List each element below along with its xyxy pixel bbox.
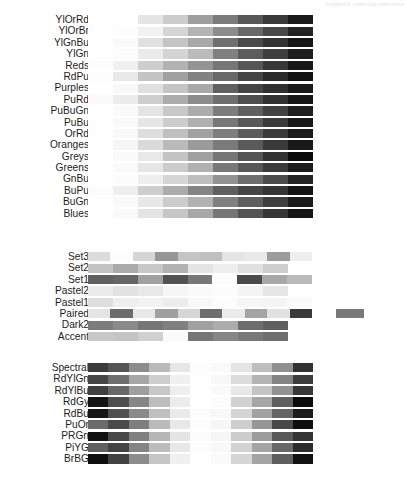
colormap-row: Set3 [0,251,407,262]
colormap-group-sequential: YlOrRdYlOrBrYlGnBuYlGnRedsRdPuPurplesPuR… [0,14,407,219]
colormap-swatch [188,163,213,172]
colormap-swatch [163,61,188,70]
colormap-swatch [213,286,238,295]
colormap-strip [88,332,288,341]
colormap-strip [88,163,313,172]
colormap-swatch [138,186,163,195]
colormap-swatch [238,264,263,273]
colormap-swatch [113,175,138,184]
colormap-name-label: PiYG [0,442,89,453]
colormap-swatch [263,27,288,36]
figure-faint-header: matplotlib colormap reference [252,1,404,7]
colormap-swatch [188,84,213,93]
colormap-strip-extra [336,309,364,318]
colormap-swatch [88,175,113,184]
colormap-name-label: PuRd [0,94,89,105]
colormap-swatch [288,140,313,149]
colormap-swatch [88,321,113,330]
colormap-swatch [188,175,213,184]
colormap-swatch [293,443,313,452]
colormap-swatch [288,175,313,184]
colormap-swatch [149,409,169,418]
colormap-swatch [88,140,113,149]
colormap-swatch [190,443,210,452]
colormap-swatch [222,252,244,261]
colormap-swatch [252,375,272,384]
colormap-name-label: RdGy [0,396,89,407]
colormap-swatch [238,27,263,36]
colormap-swatch [163,49,188,58]
colormap-name-label: Blues [0,208,89,219]
colormap-swatch [88,286,113,295]
colormap-swatch [113,275,138,284]
colormap-strip [88,432,313,441]
colormap-row: RdYlBu [0,385,407,396]
colormap-swatch [163,321,188,330]
colormap-strip [88,275,312,284]
colormap-swatch [188,286,213,295]
colormap-swatch [188,106,213,115]
colormap-swatch [263,38,288,47]
colormap-swatch [252,363,272,372]
colormap-swatch [231,375,251,384]
colormap-strip [88,197,313,206]
colormap-swatch [231,420,251,429]
colormap-row: PRGn [0,430,407,441]
colormap-strip [88,15,313,24]
colormap-strip [88,298,312,307]
colormap-swatch [213,163,238,172]
colormap-swatch [163,152,188,161]
colormap-strip [88,209,313,218]
colormap-name-label: Purples [0,82,89,93]
colormap-swatch [190,420,210,429]
colormap-swatch [149,432,169,441]
colormap-row: RdPu [0,71,407,82]
colormap-swatch [188,61,213,70]
colormap-swatch [138,321,163,330]
colormap-swatch [170,432,190,441]
colormap-swatch [155,252,177,261]
colormap-swatch [190,397,210,406]
colormap-swatch [238,332,263,341]
colormap-swatch [149,363,169,372]
colormap-swatch [88,454,108,463]
colormap-swatch [138,264,163,273]
colormap-strip [88,84,313,93]
colormap-swatch [263,152,288,161]
colormap-swatch [231,454,251,463]
colormap-swatch [245,252,267,261]
colormap-swatch [88,186,113,195]
colormap-swatch [163,38,188,47]
colormap-name-label: Set2 [0,262,89,273]
colormap-swatch [290,252,312,261]
colormap-swatch [263,118,288,127]
colormap-swatch [252,397,272,406]
colormap-swatch [190,375,210,384]
colormap-swatch [163,129,188,138]
colormap-swatch [288,163,313,172]
colormap-swatch [263,49,288,58]
colormap-swatch [263,286,288,295]
colormap-swatch [113,49,138,58]
colormap-swatch [288,197,313,206]
colormap-swatch [288,186,313,195]
colormap-swatch [238,197,263,206]
colormap-swatch [129,420,149,429]
colormap-strip [88,454,313,463]
colormap-swatch [113,72,138,81]
colormap-swatch [222,309,244,318]
colormap-name-label: Accent [0,331,89,342]
colormap-swatch [231,386,251,395]
colormap-swatch [88,38,113,47]
colormap-swatch [163,72,188,81]
colormap-swatch [163,175,188,184]
colormap-strip [88,129,313,138]
colormap-swatch [238,129,263,138]
colormap-swatch [163,106,188,115]
colormap-row: Blues [0,208,407,219]
colormap-swatch [163,275,188,284]
colormap-swatch [188,298,213,307]
colormap-swatch [188,129,213,138]
colormap-swatch [211,432,231,441]
colormap-swatch [213,106,238,115]
